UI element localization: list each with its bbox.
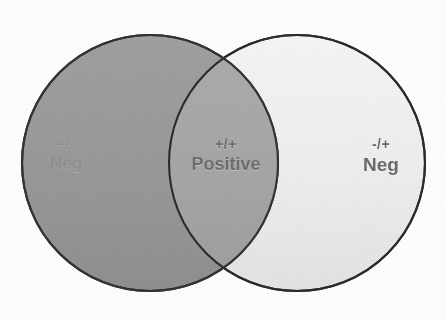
venn-diagram-canvas — [0, 0, 446, 320]
venn-diagram-figure: +/- Neg +/+ Positive -/+ Neg — [0, 0, 446, 320]
